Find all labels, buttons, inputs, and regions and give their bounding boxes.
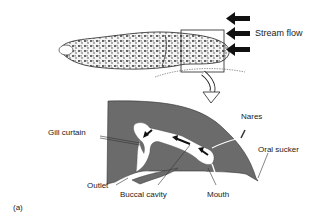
mouth-label: Mouth <box>207 191 229 199</box>
fish-diagram-figure: Stream flow Gill curtain Nares Oral suck… <box>0 0 329 223</box>
cross-section-illustration <box>107 101 258 184</box>
outlet-label: Outlet <box>87 182 108 190</box>
tail-tip <box>59 45 73 55</box>
gill-curtain-label: Gill curtain <box>48 129 86 137</box>
leader-oral-sucker <box>258 153 268 178</box>
left-arrow-icon <box>226 27 250 40</box>
nares-label: Nares <box>241 113 262 121</box>
buccal-cavity-label: Buccal cavity <box>120 191 167 199</box>
panel-label: (a) <box>13 204 23 212</box>
stream-flow-label: Stream flow <box>255 29 303 38</box>
zoom-arrow-icon <box>203 73 220 103</box>
oral-sucker-label: Oral sucker <box>258 146 299 154</box>
leader-nares <box>241 130 245 138</box>
fish-body-illustration <box>59 32 245 77</box>
left-arrow-icon <box>226 12 250 25</box>
stream-flow-arrows <box>226 12 250 56</box>
left-arrow-icon <box>226 43 250 56</box>
